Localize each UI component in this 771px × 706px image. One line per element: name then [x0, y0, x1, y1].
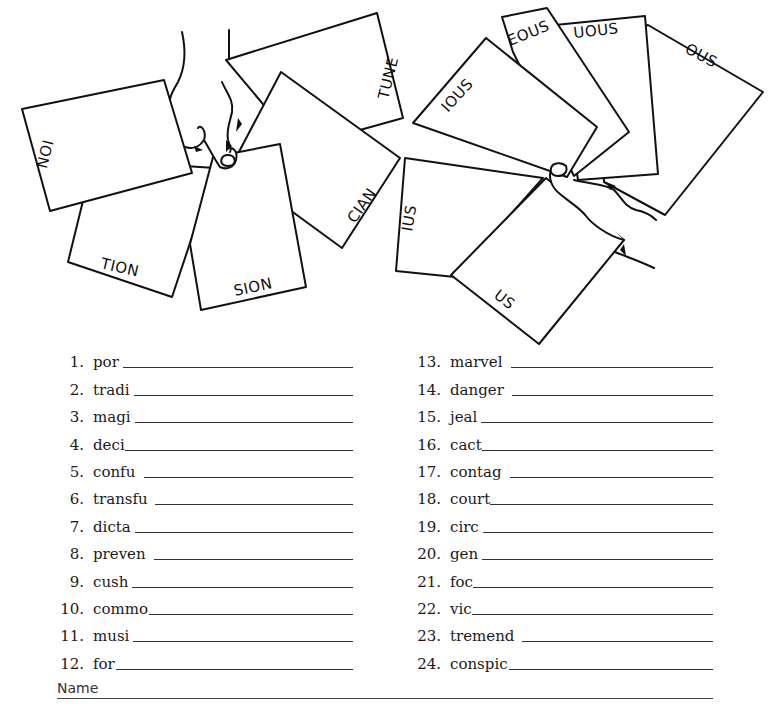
item-number: 11.: [40, 627, 93, 645]
answer-blank[interactable]: [125, 435, 353, 451]
word-stem: jeal: [450, 408, 477, 426]
exercise-item: 6.transfu: [40, 481, 353, 508]
exercise-item: 14.danger: [400, 371, 713, 398]
item-number: 5.: [40, 463, 93, 481]
answer-blank[interactable]: [473, 572, 713, 588]
answer-blank[interactable]: [482, 544, 713, 560]
left-hand-wrist: [170, 32, 185, 100]
answer-blank[interactable]: [482, 435, 713, 451]
exercise-item: 10.commo: [40, 591, 353, 618]
word-stem: preven: [93, 545, 146, 563]
item-number: 12.: [40, 655, 93, 673]
item-number: 24.: [400, 655, 450, 673]
answer-blank[interactable]: [509, 654, 713, 670]
word-stem: cush: [93, 573, 128, 591]
word-stem: deci: [93, 436, 125, 454]
answer-blank[interactable]: [155, 489, 353, 505]
word-stem: por: [93, 353, 119, 371]
answer-blank[interactable]: [132, 572, 353, 588]
exercise-item: 4.deci: [40, 426, 353, 453]
word-stem: conspic: [450, 655, 508, 673]
name-label: Name: [57, 680, 98, 696]
exercise-item: 3.magi: [40, 399, 353, 426]
item-number: 8.: [40, 545, 93, 563]
exercise-item: 21.foc: [400, 563, 713, 590]
item-number: 15.: [400, 408, 450, 426]
answer-blank[interactable]: [483, 517, 713, 533]
suffix-cards-illustration: TUNE CIAN TION SION ION OUS UOUS EOUS: [0, 0, 771, 350]
item-number: 18.: [400, 490, 450, 508]
word-stem: circ: [450, 518, 479, 536]
word-stem: marvel: [450, 353, 503, 371]
item-number: 6.: [40, 490, 93, 508]
word-stem: for: [93, 655, 115, 673]
answer-blank[interactable]: [522, 626, 713, 642]
word-stem: transfu: [93, 490, 148, 508]
exercise-item: 16.cact: [400, 426, 713, 453]
item-number: 2.: [40, 381, 93, 399]
item-number: 21.: [400, 573, 450, 591]
item-number: 4.: [40, 436, 93, 454]
word-stem: magi: [93, 408, 131, 426]
word-stem: commo: [93, 600, 148, 618]
answer-blank[interactable]: [116, 654, 353, 670]
exercise-item: 12.for: [40, 645, 353, 672]
answer-blank[interactable]: [512, 380, 713, 396]
word-stem: vic: [450, 600, 472, 618]
exercise-item: 18.court: [400, 481, 713, 508]
item-number: 17.: [400, 463, 450, 481]
exercise-item: 11.musi: [40, 618, 353, 645]
name-field[interactable]: Name: [57, 676, 713, 699]
exercise-item: 1.por: [40, 344, 353, 371]
answer-blank[interactable]: [144, 462, 353, 478]
item-number: 19.: [400, 518, 450, 536]
exercise-right-column: 13.marvel 14.danger 15.jeal 16.cact 17.c…: [400, 344, 713, 673]
exercise-left-column: 1.por 2.tradi 3.magi 4.deci 5.confu 6.tr…: [40, 344, 353, 673]
item-number: 13.: [400, 353, 450, 371]
exercise-item: 15.jeal: [400, 399, 713, 426]
item-number: 3.: [40, 408, 93, 426]
word-stem: tradi: [93, 381, 130, 399]
exercise-item: 24.conspic: [400, 645, 713, 672]
answer-blank[interactable]: [135, 517, 353, 533]
answer-blank[interactable]: [133, 626, 353, 642]
word-stem: dicta: [93, 518, 131, 536]
answer-blank[interactable]: [135, 407, 353, 423]
exercise-item: 2.tradi: [40, 371, 353, 398]
item-number: 1.: [40, 353, 93, 371]
item-number: 16.: [400, 436, 450, 454]
exercise-item: 8.preven: [40, 536, 353, 563]
exercise-item: 7.dicta: [40, 508, 353, 535]
answer-blank[interactable]: [134, 380, 353, 396]
answer-blank[interactable]: [154, 544, 353, 560]
exercise-item: 17.contag: [400, 454, 713, 481]
item-number: 20.: [400, 545, 450, 563]
item-number: 14.: [400, 381, 450, 399]
answer-blank[interactable]: [511, 352, 714, 368]
item-number: 22.: [400, 600, 450, 618]
word-stem: court: [450, 490, 490, 508]
exercise-item: 9.cush: [40, 563, 353, 590]
exercise-item: 13.marvel: [400, 344, 713, 371]
answer-blank[interactable]: [490, 489, 713, 505]
word-stem: danger: [450, 381, 504, 399]
exercise-item: 5.confu: [40, 454, 353, 481]
word-stem: gen: [450, 545, 478, 563]
exercise-item: 23.tremend: [400, 618, 713, 645]
word-stem: musi: [93, 627, 129, 645]
item-number: 7.: [40, 518, 93, 536]
item-number: 9.: [40, 573, 93, 591]
answer-blank[interactable]: [481, 407, 713, 423]
item-number: 23.: [400, 627, 450, 645]
word-stem: foc: [450, 573, 473, 591]
exercise-item: 22.vic: [400, 591, 713, 618]
word-stem: confu: [93, 463, 135, 481]
answer-blank[interactable]: [472, 599, 713, 615]
word-stem: cact: [450, 436, 482, 454]
answer-blank[interactable]: [510, 462, 713, 478]
answer-blank[interactable]: [123, 352, 353, 368]
word-stem: tremend: [450, 627, 514, 645]
exercise-item: 20.gen: [400, 536, 713, 563]
item-number: 10.: [40, 600, 93, 618]
answer-blank[interactable]: [149, 599, 353, 615]
